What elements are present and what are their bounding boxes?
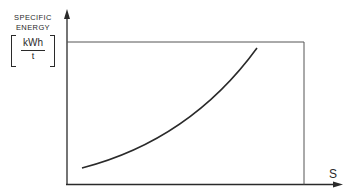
y-axis-label-line1: SPECIFIC: [3, 13, 63, 22]
unit-numerator: kWh: [11, 37, 55, 48]
unit-denominator: t: [11, 51, 55, 61]
y-axis-unit: kWh t: [11, 35, 55, 67]
specific-energy-diagram: SPECIFIC ENERGY kWh t S: [0, 0, 355, 195]
x-axis-label: S: [329, 167, 337, 181]
x-axis-arrow-icon: [333, 182, 343, 188]
y-axis-arrow-icon: [64, 9, 70, 19]
specific-energy-curve: [82, 48, 257, 168]
y-axis-label-line2: ENERGY: [3, 23, 63, 32]
